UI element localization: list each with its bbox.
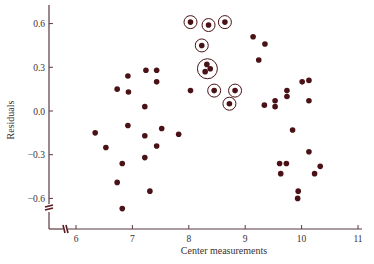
data-point xyxy=(284,94,290,100)
data-point xyxy=(278,171,284,177)
y-tick-label: −0.3 xyxy=(28,150,45,160)
data-point xyxy=(211,88,217,94)
data-point xyxy=(119,161,125,167)
data-point xyxy=(284,88,290,94)
data-points xyxy=(92,16,323,212)
data-point xyxy=(126,89,132,95)
data-point xyxy=(262,41,268,47)
data-point xyxy=(125,73,131,79)
data-point xyxy=(284,161,290,167)
y-tick-label: 0.3 xyxy=(33,63,45,73)
data-point xyxy=(176,132,182,138)
data-point xyxy=(125,123,131,129)
x-tick-label: 8 xyxy=(186,234,191,244)
data-point xyxy=(232,88,238,94)
x-tick-label: 6 xyxy=(74,234,79,244)
data-point xyxy=(143,67,149,73)
data-point xyxy=(207,66,213,72)
x-tick-label: 7 xyxy=(130,234,135,244)
y-tick-label: −0.6 xyxy=(28,194,45,204)
y-axis-break-icon xyxy=(45,205,53,210)
x-tick-label: 9 xyxy=(243,234,248,244)
data-point xyxy=(142,104,148,110)
data-point xyxy=(154,143,160,149)
y-tick-label: 0.6 xyxy=(33,19,45,29)
data-point xyxy=(114,180,120,186)
y-tick-label: 0.0 xyxy=(33,107,45,117)
data-point xyxy=(295,196,301,202)
data-point xyxy=(92,130,98,136)
data-point xyxy=(159,126,165,132)
data-point xyxy=(188,19,194,25)
y-axis-title: Residuals xyxy=(5,100,16,139)
data-point xyxy=(277,161,283,167)
data-point xyxy=(272,104,278,110)
axes: 0.60.30.0−0.3−0.667891011 xyxy=(28,5,363,244)
data-point xyxy=(306,98,312,104)
data-point xyxy=(256,57,262,63)
x-axis-title: Center measurements xyxy=(181,245,267,256)
data-point xyxy=(250,34,256,40)
data-point xyxy=(147,188,153,194)
data-point xyxy=(154,67,160,73)
data-point xyxy=(306,78,312,84)
data-point xyxy=(299,79,305,85)
data-point xyxy=(199,43,205,49)
data-point xyxy=(222,19,228,25)
x-tick-label: 10 xyxy=(297,234,307,244)
data-point xyxy=(188,88,194,94)
data-point xyxy=(154,79,160,85)
residual-scatter-chart: 0.60.30.0−0.3−0.667891011 Center measure… xyxy=(0,0,374,264)
data-point xyxy=(119,206,125,212)
data-point xyxy=(142,155,148,161)
data-point xyxy=(262,102,268,108)
data-point xyxy=(206,22,212,28)
data-point xyxy=(272,98,278,104)
data-point xyxy=(202,69,208,75)
data-point xyxy=(312,171,318,177)
data-point xyxy=(103,145,109,151)
data-point xyxy=(204,62,210,68)
data-point xyxy=(114,86,120,92)
data-point xyxy=(290,127,296,133)
data-point xyxy=(306,149,312,155)
x-tick-label: 11 xyxy=(353,234,362,244)
data-point xyxy=(227,101,233,107)
data-point xyxy=(142,133,148,139)
x-axis-break-icon xyxy=(63,225,68,233)
data-point xyxy=(317,164,323,170)
data-point xyxy=(295,188,301,194)
